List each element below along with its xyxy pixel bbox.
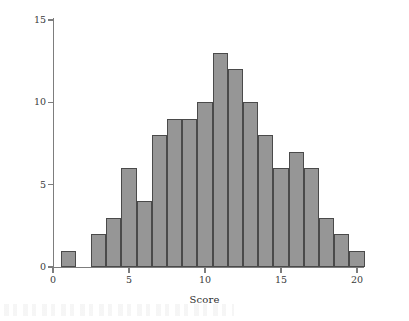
histogram-bar: [213, 53, 228, 267]
histogram-figure: 05101520 051015 Score Frequency: [0, 0, 409, 321]
x-axis-tick: [280, 268, 281, 273]
x-axis-tick-label: 5: [126, 275, 132, 285]
histogram-bar: [228, 69, 243, 267]
histogram-bar: [152, 135, 167, 267]
histogram-bar: [334, 234, 349, 267]
histogram-bar: [273, 168, 288, 267]
y-axis-line: [53, 18, 54, 267]
x-axis-tick: [204, 268, 205, 273]
x-axis-tick-label: 15: [275, 275, 287, 285]
y-axis-tick: [48, 102, 53, 103]
histogram-bar: [243, 102, 258, 267]
histogram-bar: [91, 234, 106, 267]
histogram-bar: [304, 168, 319, 267]
x-axis-tick-label: 20: [351, 275, 363, 285]
histogram-bar: [121, 168, 136, 267]
histogram-bar: [106, 218, 121, 267]
x-axis-tick-label: 10: [199, 275, 211, 285]
histogram-bar: [258, 135, 273, 267]
histogram-bar: [349, 251, 364, 267]
y-axis-tick: [48, 184, 53, 185]
y-axis-tick: [48, 19, 53, 20]
y-axis-tick-label: 10: [34, 97, 46, 107]
x-axis-tick: [356, 268, 357, 273]
y-axis-tick-label: 15: [34, 15, 46, 25]
y-axis-tick-label: 0: [40, 262, 46, 272]
y-axis-tick: [48, 266, 53, 267]
histogram-bar: [137, 201, 152, 267]
y-axis-tick-label: 5: [40, 180, 46, 190]
x-axis-tick: [52, 268, 53, 273]
histogram-bar: [167, 119, 182, 267]
caption-artifact: [4, 304, 234, 316]
histogram-bar: [182, 119, 197, 267]
histogram-bar: [319, 218, 334, 267]
x-axis-tick: [128, 268, 129, 273]
histogram-bar: [197, 102, 212, 267]
plot-area: 05101520 051015: [0, 0, 409, 321]
histogram-bar: [61, 251, 76, 267]
x-axis-tick-label: 0: [50, 275, 56, 285]
histogram-bar: [289, 152, 304, 267]
